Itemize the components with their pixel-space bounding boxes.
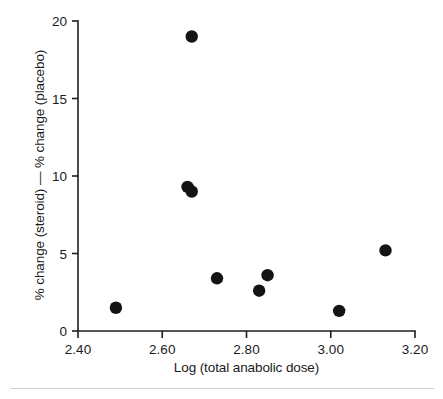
x-tick-group: 2.402.602.803.003.20: [65, 331, 428, 357]
y-tick-label-0: 0: [59, 324, 67, 339]
x-tick-label-3.20: 3.20: [402, 342, 428, 357]
data-point: [379, 244, 391, 256]
y-tick-label-10: 10: [52, 169, 67, 184]
footer-divider: [10, 388, 434, 389]
y-tick-label-15: 15: [52, 92, 67, 107]
y-tick-group: 05101520: [52, 14, 78, 339]
data-point: [186, 185, 198, 197]
y-tick-label-20: 20: [52, 14, 67, 29]
axes-group: [78, 21, 415, 331]
x-tick-label-2.40: 2.40: [65, 342, 91, 357]
x-tick-label-2.60: 2.60: [149, 342, 175, 357]
data-point: [253, 285, 265, 297]
y-tick-label-5: 5: [59, 247, 67, 262]
data-point: [186, 30, 198, 42]
x-tick-label-2.80: 2.80: [233, 342, 259, 357]
data-point: [211, 272, 223, 284]
plot-canvas: 05101520 2.402.602.803.003.20: [0, 0, 443, 399]
data-point-group: [110, 30, 392, 317]
data-point: [333, 305, 345, 317]
data-point: [261, 269, 273, 281]
x-axis-title: Log (total anabolic dose): [78, 360, 415, 375]
data-point: [110, 302, 122, 314]
scatter-plot-figure: % change (steroid) — % change (placebo) …: [0, 0, 443, 399]
x-tick-label-3.00: 3.00: [318, 342, 344, 357]
